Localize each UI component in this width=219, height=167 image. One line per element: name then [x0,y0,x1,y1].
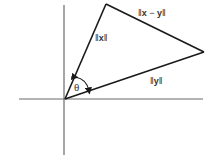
label-norm-y: ‖y‖ [150,77,162,86]
label-norm-x-minus-y: ‖x − y‖ [138,9,166,18]
label-norm-x: ‖x‖ [95,34,107,43]
minus-operator: − [147,8,157,18]
vector-y [65,52,204,99]
vector-diagram [0,0,219,167]
norm-close: ‖ [162,8,166,18]
norm-close: ‖ [104,33,108,43]
norm-close: ‖ [159,76,163,86]
label-theta: θ [74,82,79,93]
vector-x [65,4,106,99]
